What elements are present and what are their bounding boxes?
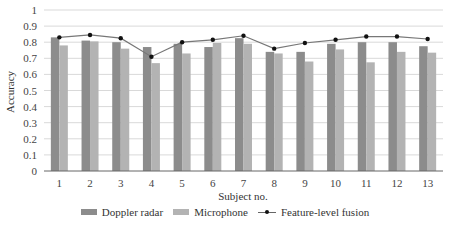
- y-tick-label: 0.9: [23, 20, 37, 32]
- legend: Doppler radar Microphone Feature-level f…: [0, 206, 450, 218]
- x-tick-label: 11: [361, 177, 372, 189]
- bar-doppler: [235, 38, 244, 171]
- fusion-marker: [272, 46, 276, 50]
- bar-doppler: [388, 42, 397, 171]
- x-tick-label: 13: [422, 177, 434, 189]
- accuracy-chart: 00.10.20.30.40.50.60.70.80.91 1234567891…: [0, 0, 450, 206]
- bar-doppler: [143, 47, 152, 171]
- x-tick-label: 9: [302, 177, 308, 189]
- x-tick-label: 2: [87, 177, 93, 189]
- x-tick-label: 12: [391, 177, 402, 189]
- bar-microphone: [428, 53, 437, 171]
- bar-microphone: [151, 63, 160, 171]
- x-tick-label: 7: [241, 177, 247, 189]
- legend-item-microphone: Microphone: [173, 206, 248, 218]
- y-tick-label: 0.2: [23, 133, 37, 145]
- bar-microphone: [121, 49, 130, 171]
- legend-label-doppler: Doppler radar: [102, 206, 163, 218]
- bar-microphone: [274, 53, 283, 171]
- fusion-marker: [180, 40, 184, 44]
- fusion-line-marker-icon: [258, 208, 276, 216]
- x-axis-title: Subject no.: [218, 190, 268, 202]
- fusion-marker: [149, 54, 153, 58]
- bars: [51, 37, 436, 171]
- bar-microphone: [59, 45, 68, 171]
- legend-label-microphone: Microphone: [194, 206, 248, 218]
- doppler-swatch-icon: [81, 209, 97, 215]
- bar-doppler: [112, 42, 121, 171]
- bar-doppler: [174, 44, 183, 171]
- x-tick-label: 8: [271, 177, 277, 189]
- y-tick-label: 0.5: [23, 85, 37, 97]
- fusion-marker: [119, 36, 123, 40]
- x-tick-label: 6: [210, 177, 216, 189]
- x-axis-ticks: 12345678910111213: [57, 177, 434, 189]
- fusion-marker: [333, 38, 337, 42]
- fusion-marker: [425, 37, 429, 41]
- y-tick-label: 0.8: [23, 36, 37, 48]
- fusion-marker: [211, 38, 215, 42]
- x-tick-label: 3: [118, 177, 124, 189]
- x-tick-label: 5: [179, 177, 185, 189]
- y-tick-label: 0: [32, 165, 38, 177]
- bar-microphone: [213, 43, 222, 171]
- bar-doppler: [327, 44, 336, 171]
- bar-microphone: [336, 49, 345, 171]
- x-tick-label: 4: [149, 177, 155, 189]
- microphone-swatch-icon: [173, 209, 189, 215]
- fusion-marker: [57, 35, 61, 39]
- bar-microphone: [397, 52, 406, 171]
- bar-microphone: [90, 41, 99, 171]
- y-tick-label: 0.4: [23, 101, 37, 113]
- bar-microphone: [182, 53, 191, 171]
- bar-doppler: [51, 37, 60, 171]
- bar-doppler: [82, 41, 91, 171]
- x-tick-label: 10: [330, 177, 342, 189]
- bar-microphone: [305, 62, 314, 171]
- fusion-marker: [395, 34, 399, 38]
- y-axis-title: Accuracy: [4, 70, 16, 113]
- legend-label-fusion: Feature-level fusion: [281, 206, 369, 218]
- bar-doppler: [358, 42, 367, 171]
- bar-doppler: [296, 52, 305, 171]
- fusion-marker: [88, 33, 92, 37]
- y-tick-label: 0.1: [23, 149, 37, 161]
- fusion-marker: [241, 34, 245, 38]
- x-tick-label: 1: [57, 177, 63, 189]
- y-axis-ticks: 00.10.20.30.40.50.60.70.80.91: [23, 4, 37, 177]
- y-tick-label: 0.7: [23, 52, 37, 64]
- bar-microphone: [366, 62, 375, 171]
- bar-microphone: [244, 44, 253, 171]
- y-tick-label: 0.3: [23, 117, 37, 129]
- fusion-marker: [364, 34, 368, 38]
- fusion-marker: [303, 41, 307, 45]
- y-tick-label: 0.6: [23, 68, 37, 80]
- legend-item-doppler: Doppler radar: [81, 206, 163, 218]
- legend-item-fusion: Feature-level fusion: [258, 206, 369, 218]
- bar-doppler: [266, 52, 275, 171]
- bar-doppler: [419, 46, 428, 171]
- bar-doppler: [204, 47, 213, 171]
- y-tick-label: 1: [32, 4, 38, 16]
